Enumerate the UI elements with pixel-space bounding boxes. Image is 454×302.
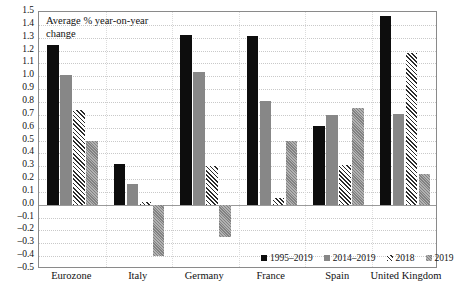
x-tick-label: Eurozone xyxy=(38,270,105,282)
bar xyxy=(153,205,165,256)
gridline xyxy=(39,218,436,219)
x-axis-category-labels: EurozoneItalyGermanyFranceSpainUnited Ki… xyxy=(38,270,437,292)
vertical-gridline xyxy=(372,12,373,267)
gridline xyxy=(39,115,436,116)
bar xyxy=(313,126,325,204)
gridline xyxy=(39,179,436,180)
bar xyxy=(406,53,418,205)
legend-item: 2018 xyxy=(387,253,415,263)
bar xyxy=(193,72,205,204)
bar xyxy=(60,75,72,205)
bar xyxy=(180,35,192,205)
y-axis-tick-labels: 1.51.41.31.21.11.00.90.80.70.60.50.40.30… xyxy=(0,11,36,268)
y-tick-label: –0.1 xyxy=(17,212,34,222)
y-tick-label: 0.6 xyxy=(22,122,34,132)
vertical-gridline xyxy=(106,12,107,267)
y-tick-label: –0.3 xyxy=(17,237,34,247)
legend-item: 2019 xyxy=(426,253,454,263)
legend-label: 1995–2019 xyxy=(270,253,313,263)
gridline xyxy=(39,166,436,167)
y-tick-label: 0.3 xyxy=(22,160,34,170)
gridline xyxy=(39,102,436,103)
bar xyxy=(247,36,259,204)
vertical-gridline xyxy=(239,12,240,267)
plot-area: 1995–20192014–201920182019 xyxy=(38,11,437,268)
gridline xyxy=(39,76,436,77)
y-tick-label: 0.8 xyxy=(22,96,34,106)
legend-label: 2019 xyxy=(435,253,454,263)
gridline xyxy=(39,153,436,154)
y-tick-label: 1.5 xyxy=(22,6,34,16)
bar xyxy=(86,141,98,205)
bar xyxy=(393,114,405,205)
y-tick-label: 0.5 xyxy=(22,135,34,145)
bar xyxy=(47,45,59,204)
y-tick-label: 0.1 xyxy=(22,186,34,196)
gridline xyxy=(39,89,436,90)
bar xyxy=(286,141,298,205)
x-tick-label: Germany xyxy=(171,270,238,282)
legend-swatch-icon xyxy=(261,255,267,261)
y-tick-label: –0.2 xyxy=(17,224,34,234)
y-tick-label: –0.5 xyxy=(17,263,34,273)
bar xyxy=(219,205,231,237)
bar xyxy=(273,198,285,204)
bar xyxy=(114,164,126,205)
legend-swatch-icon xyxy=(387,255,393,261)
legend-item: 1995–2019 xyxy=(261,253,313,263)
x-tick-label: France xyxy=(238,270,305,282)
bar xyxy=(140,202,152,205)
gridline xyxy=(39,192,436,193)
y-tick-label: 1.4 xyxy=(22,19,34,29)
y-tick-label: 1.1 xyxy=(22,57,34,67)
bar xyxy=(326,115,338,205)
bar xyxy=(206,166,218,205)
y-tick-label: 0.4 xyxy=(22,147,34,157)
bar xyxy=(419,174,431,205)
gridline xyxy=(39,230,436,231)
y-tick-label: 1.3 xyxy=(22,32,34,42)
bar xyxy=(127,184,139,205)
vertical-gridline xyxy=(305,12,306,267)
y-tick-label: 0.7 xyxy=(22,109,34,119)
y-tick-label: –0.4 xyxy=(17,250,34,260)
legend-swatch-icon xyxy=(426,255,432,261)
gridline xyxy=(39,51,436,52)
legend-swatch-icon xyxy=(324,255,330,261)
vertical-gridline xyxy=(172,12,173,267)
zero-line xyxy=(39,205,436,206)
bar xyxy=(380,16,392,205)
x-tick-label: Spain xyxy=(304,270,371,282)
y-tick-label: 0.2 xyxy=(22,173,34,183)
bar xyxy=(352,108,364,204)
y-tick-label: 1.2 xyxy=(22,45,34,55)
chart-legend: 1995–20192014–201920182019 xyxy=(261,252,454,264)
gridline xyxy=(39,243,436,244)
legend-label: 2014–2019 xyxy=(333,253,376,263)
x-tick-label: United Kingdom xyxy=(371,270,438,282)
y-tick-label: 1.0 xyxy=(22,70,34,80)
y-tick-label: 0.9 xyxy=(22,83,34,93)
x-tick-label: Italy xyxy=(105,270,172,282)
legend-label: 2018 xyxy=(396,253,415,263)
gridline xyxy=(39,141,436,142)
gridline xyxy=(39,63,436,64)
legend-item: 2014–2019 xyxy=(324,253,376,263)
bar xyxy=(339,165,351,205)
gridline xyxy=(39,128,436,129)
bar xyxy=(73,110,85,205)
y-tick-label: 0.0 xyxy=(22,199,34,209)
bar xyxy=(260,101,272,205)
chart-title: Average % year-on-year change xyxy=(46,14,176,40)
